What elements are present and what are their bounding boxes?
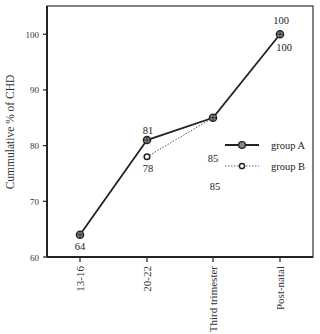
group-b-line	[147, 34, 280, 157]
group-a-data-label: 81	[143, 125, 154, 136]
legend: group Agroup B	[225, 140, 306, 172]
group-b-marker	[144, 154, 150, 160]
y-tick-label: 100	[26, 30, 40, 40]
y-tick-label: 70	[30, 197, 40, 207]
x-tick-label: Post-natal	[274, 266, 286, 310]
y-tick-label: 80	[30, 141, 40, 151]
x-tick-label: 20-22	[141, 266, 153, 292]
series-lines: 6481851007885100	[75, 15, 292, 252]
group-b-data-label: 100	[276, 42, 292, 53]
x-tick-label: Third trimester	[207, 266, 219, 333]
line-chart: 60708090100 13-1620-22Third trimesterPos…	[0, 0, 320, 334]
group-a-line	[80, 34, 280, 235]
group-a-data-label: 64	[75, 241, 86, 252]
legend-group-a-marker-icon	[239, 142, 246, 149]
x-ticks: 13-1620-22Third trimesterPost-natal	[74, 257, 286, 332]
legend-group-a-label: group A	[271, 140, 306, 151]
group-a-data-label: 85	[208, 153, 219, 164]
y-tick-label: 90	[30, 85, 40, 95]
y-tick-label: 60	[30, 253, 40, 263]
legend-group-b-label: group B	[271, 161, 305, 172]
legend-group-b-marker-icon	[239, 163, 244, 168]
y-ticks: 60708090100	[26, 30, 48, 263]
x-tick-label: 13-16	[74, 266, 86, 292]
group-b-data-label: 85	[210, 181, 221, 192]
group-b-data-label: 78	[143, 163, 154, 174]
group-a-data-label: 100	[273, 15, 289, 26]
